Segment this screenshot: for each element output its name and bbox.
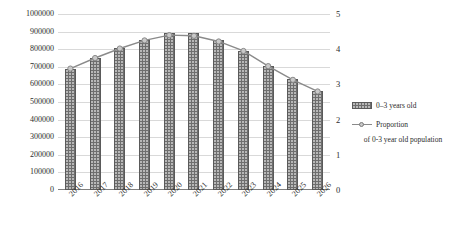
- y2-tick-label: 3: [336, 80, 352, 88]
- y-tick-label: 200000: [0, 151, 54, 159]
- legend-item-line: Proportion: [352, 119, 454, 130]
- legend-line-label: Proportion: [376, 119, 408, 130]
- bar-rect: [238, 51, 249, 190]
- bar-rect: [213, 40, 224, 190]
- legend-item-bar: 0–3 years old: [352, 100, 454, 111]
- legend-bar-label: 0–3 years old: [376, 100, 416, 111]
- bar-2022: [206, 14, 231, 190]
- bar-rect: [114, 48, 125, 190]
- bar-series: [58, 14, 330, 190]
- bar-2026: [305, 14, 330, 190]
- y-tick-label: 800000: [0, 45, 54, 53]
- bar-rect: [263, 66, 274, 190]
- chart-container: Population 1000000 900000 800000 700000 …: [0, 0, 454, 228]
- bar-2023: [231, 14, 256, 190]
- y-tick-label: 900000: [0, 28, 54, 36]
- y2-tick-label: 2: [336, 116, 352, 124]
- plot-area: [58, 14, 330, 190]
- bar-2016: [58, 14, 83, 190]
- chart-legend: 0–3 years old Proportion of 0-3 year old…: [352, 100, 454, 145]
- bar-2024: [256, 14, 281, 190]
- y-tick-label: 0: [0, 186, 54, 194]
- bar-2017: [83, 14, 108, 190]
- bar-rect: [164, 33, 175, 190]
- legend-line-label-line2: of 0-3 year old population: [352, 134, 454, 145]
- y-tick-label: 300000: [0, 133, 54, 141]
- bar-2020: [157, 14, 182, 190]
- bar-rect: [65, 69, 76, 190]
- y2-tick-label: 5: [336, 10, 352, 18]
- bar-2018: [107, 14, 132, 190]
- y-tick-label: 500000: [0, 98, 54, 106]
- y2-tick-label: 1: [336, 151, 352, 159]
- x-axis-labels: 2016201720182019202020212022202320242025…: [58, 192, 330, 226]
- bar-rect: [139, 40, 150, 190]
- y-tick-label: 100000: [0, 168, 54, 176]
- bar-rect: [188, 33, 199, 190]
- y2-tick-label: 0: [336, 186, 352, 194]
- bar-2019: [132, 14, 157, 190]
- y-tick-label: 1000000: [0, 10, 54, 18]
- y2-tick-label: 4: [336, 45, 352, 53]
- legend-line-marker-icon: [352, 121, 372, 128]
- y-tick-label: 700000: [0, 63, 54, 71]
- bar-2025: [281, 14, 306, 190]
- legend-bar-swatch-icon: [352, 102, 372, 109]
- bar-2021: [182, 14, 207, 190]
- bar-rect: [312, 91, 323, 190]
- y-tick-label: 600000: [0, 80, 54, 88]
- y-tick-label: 400000: [0, 116, 54, 124]
- bar-rect: [287, 79, 298, 190]
- bar-rect: [90, 58, 101, 190]
